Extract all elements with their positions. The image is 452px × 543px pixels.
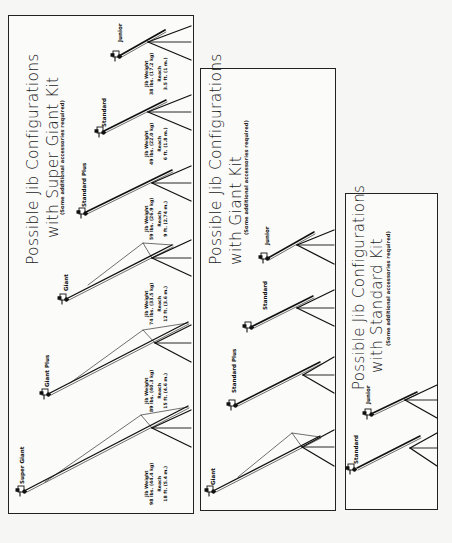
jib-label-standard-plus: Standard Plus [231,349,237,393]
weight-value: 59 lbs. (26.9 kg) [149,198,154,240]
jib-spec-giant-plus: Jib Weight 89 lbs. (40.3 kg) Reach 15 ft… [144,370,168,412]
weight-value: 89 lbs. (40.3 kg) [149,370,154,412]
jib-label-junior: Junior [117,23,123,42]
panel-note: (Some additional accessories required) [385,231,391,346]
jib-drawing-standard [95,95,191,137]
jib-label-super-giant: Super Giant [19,447,25,484]
panel-note: (Some additional accessories required) [243,120,249,235]
panel-title-line1: Possible Jib Configurations [350,185,368,390]
weight-value: 98 lbs. (44.4 kg) [149,463,154,505]
jib-label-standard: Standard [353,435,359,464]
reach-value: 9 ft. (2.74 m.) [163,198,168,240]
jib-label-junior: Junior [264,226,270,245]
reach-value: 3.5 ft. (1 m.) [163,53,168,95]
panel-title-line1: Possible Jib Configurations [24,53,42,265]
jib-label-junior: Junior [365,385,371,404]
jib-spec-standard-plus: Jib Weight 59 lbs. (26.9 kg) Reach 9 ft.… [144,198,168,240]
reach-value: 6 ft. (1.8 m.) [163,123,168,165]
jib-label-giant: Giant [63,274,69,291]
weight-value: 49 lbs. (22.0 kg) [149,123,154,165]
weight-value: 38 lbs. (17.2 kg) [149,53,154,95]
jib-drawing-giant-kit-standard [243,290,334,332]
jib-label-giant-plus: Giant Plus [44,355,50,387]
panel-title-line2: with Standard Kit [368,238,386,373]
jib-drawing-giant-kit-standard-plus [227,357,334,410]
weight-value: 74 lbs. (33.5 kg) [149,283,154,325]
jib-label-standard-plus: Standard Plus [81,163,87,207]
panel-title-line1: Possible Jib Configurations [207,53,225,265]
jib-spec-junior: Jib Weight 38 lbs. (17.2 kg) Reach 3.5 f… [144,53,168,95]
reach-value: 12 ft. (3.6 m.) [163,283,168,325]
reach-value: 15 ft. (4.6 m.) [163,370,168,412]
jib-drawing-standard-kit-junior [363,385,437,419]
jib-drawing-giant-plus [40,322,191,399]
panel-note: (Some additional accessories required) [59,100,65,215]
jib-label-giant: Giant [210,468,216,485]
jib-drawing-standard-plus [77,166,191,218]
jib-label-standard: Standard [101,98,107,127]
jib-drawing-giant-kit-giant [205,430,334,496]
jib-spec-super-giant: Jib Weight 98 lbs. (44.4 kg) Reach 18 ft… [144,463,168,505]
jib-label-standard: Standard [262,281,268,310]
jib-spec-giant: Jib Weight 74 lbs. (33.5 kg) Reach 12 ft… [144,283,168,325]
jib-drawing-giant-kit-junior [259,230,334,264]
jib-spec-standard: Jib Weight 49 lbs. (22.0 kg) Reach 6 ft.… [144,123,168,165]
jib-drawing-standard-kit-standard [346,433,437,474]
reach-value: 18 ft. (5.4 m.) [163,463,168,505]
jib-drawing-giant [58,240,191,304]
